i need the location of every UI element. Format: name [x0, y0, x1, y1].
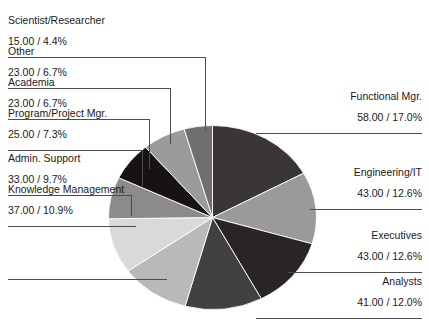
leader-line-knowledge-management-h [8, 226, 136, 227]
label-scientist-researcher-name: Scientist/Researcher [8, 14, 105, 26]
leader-line-knowledge-management-bottom [8, 279, 167, 280]
leader-line-program-project-mgr-h [8, 150, 143, 151]
label-executives-value: 43.00 / 12.6% [357, 250, 422, 262]
label-admin-support[interactable]: Admin. Support 33.00 / 9.7% [8, 152, 80, 185]
leader-line-admin-support-v [131, 195, 132, 216]
leader-line-program-project-mgr-v [142, 150, 143, 186]
leader-line-other-v [170, 88, 171, 144]
label-functional-mgr-name: Functional Mgr. [350, 90, 422, 102]
label-program-project-mgr-name: Program/Project Mgr. [8, 107, 107, 119]
label-functional-mgr-value: 58.00 / 17.0% [350, 111, 422, 123]
label-engineering-it[interactable]: Engineering/IT 43.00 / 12.6% [354, 166, 422, 199]
label-analysts-value: 41.00 / 12.0% [357, 296, 422, 308]
leader-line-functional-mgr-h [256, 133, 422, 134]
label-functional-mgr[interactable]: Functional Mgr. 58.00 / 17.0% [350, 90, 422, 123]
label-engineering-it-name: Engineering/IT [354, 166, 422, 178]
leader-line-executives-h [288, 272, 422, 273]
label-analysts[interactable]: Analysts 41.00 / 12.0% [357, 275, 422, 308]
pie-chart-figure: Scientist/Researcher 15.00 / 4.4% Other … [0, 0, 429, 327]
label-academia-name: Academia [8, 76, 67, 88]
label-executives-name: Executives [357, 229, 422, 241]
leader-line-engineering-it-h [310, 209, 422, 210]
label-other[interactable]: Other 23.00 / 6.7% [8, 45, 67, 78]
pie-slice-group [109, 126, 317, 310]
leader-line-scientist-researcher-v [205, 57, 206, 130]
label-knowledge-management[interactable]: Knowledge Management 37.00 / 10.9% [8, 183, 124, 216]
label-knowledge-management-value: 37.00 / 10.9% [8, 204, 124, 216]
label-scientist-researcher[interactable]: Scientist/Researcher 15.00 / 4.4% [8, 14, 105, 47]
label-knowledge-management-name: Knowledge Management [8, 183, 124, 195]
label-admin-support-name: Admin. Support [8, 152, 80, 164]
label-program-project-mgr[interactable]: Program/Project Mgr. 25.00 / 7.3% [8, 107, 107, 140]
label-academia[interactable]: Academia 23.00 / 6.7% [8, 76, 67, 109]
label-program-project-mgr-value: 25.00 / 7.3% [8, 128, 107, 140]
label-executives[interactable]: Executives 43.00 / 12.6% [357, 229, 422, 262]
label-analysts-name: Analysts [357, 275, 422, 287]
label-other-name: Other [8, 45, 67, 57]
leader-line-academia-v [149, 119, 150, 169]
leader-line-analysts-h [256, 318, 422, 319]
label-engineering-it-value: 43.00 / 12.6% [354, 187, 422, 199]
